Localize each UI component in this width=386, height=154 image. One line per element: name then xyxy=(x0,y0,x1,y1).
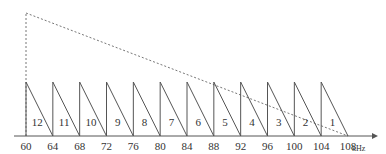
tick-label: 72 xyxy=(101,140,112,152)
channel-label: 9 xyxy=(115,116,121,128)
channel-label: 1 xyxy=(330,116,336,128)
tick-label: 76 xyxy=(128,140,140,152)
channel-label: 11 xyxy=(59,116,70,128)
tick-label: 60 xyxy=(21,140,33,152)
channel-label: 6 xyxy=(196,116,202,128)
channel-label: 10 xyxy=(85,116,97,128)
tick-label: 96 xyxy=(262,140,274,152)
tick-label: 84 xyxy=(182,140,194,152)
axis-tick-labels: 60646872768084889296100104108 xyxy=(21,140,357,152)
channel-5: 5 xyxy=(214,82,241,136)
tick-label: 88 xyxy=(208,140,220,152)
tick-label: 64 xyxy=(47,140,59,152)
tick-label: 80 xyxy=(155,140,167,152)
channel-label: 8 xyxy=(142,116,148,128)
channel-9: 9 xyxy=(107,82,134,136)
channel-label: 2 xyxy=(303,116,309,128)
channel-label: 12 xyxy=(32,116,43,128)
channel-4: 4 xyxy=(241,82,268,136)
tick-label: 108 xyxy=(340,140,357,152)
channel-3: 3 xyxy=(268,82,295,136)
channel-11: 11 xyxy=(53,82,80,136)
channel-6: 6 xyxy=(187,82,214,136)
channel-label: 3 xyxy=(276,116,282,128)
channel-7: 7 xyxy=(160,82,187,136)
axis-arrow-icon xyxy=(372,133,378,139)
channel-label: 4 xyxy=(249,116,255,128)
tick-label: 100 xyxy=(286,140,303,152)
channel-1: 1 xyxy=(321,82,348,136)
channel-2: 2 xyxy=(294,82,321,136)
channel-12: 12 xyxy=(26,82,53,136)
tick-label: 92 xyxy=(235,140,246,152)
channel-label: 5 xyxy=(222,116,228,128)
tick-label: 68 xyxy=(74,140,86,152)
frequency-division-diagram: kHz 121110987654321 60646872768084889296… xyxy=(0,0,386,154)
channel-label: 7 xyxy=(169,116,175,128)
channel-10: 10 xyxy=(80,82,107,136)
channel-8: 8 xyxy=(133,82,160,136)
channel-triangles: 121110987654321 xyxy=(26,82,348,136)
tick-label: 104 xyxy=(313,140,330,152)
